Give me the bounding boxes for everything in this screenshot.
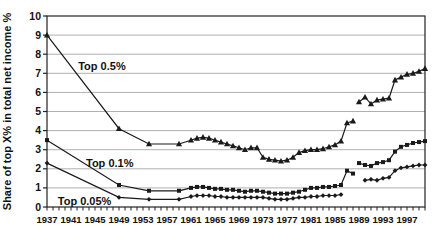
x-axis-tick-label: 1985: [324, 214, 346, 225]
x-axis-tick-label: 1973: [252, 214, 273, 225]
data-point-diamond: [177, 197, 182, 202]
x-axis-tick-label: 1949: [108, 214, 129, 225]
series-label-top-0.5-: Top 0.5%: [78, 60, 126, 72]
data-point-diamond: [207, 193, 212, 198]
data-point-diamond: [273, 197, 278, 202]
series-line-top-0.5-: [359, 69, 425, 104]
x-axis-tick-label: 1981: [300, 214, 322, 225]
data-point-square: [285, 192, 289, 196]
data-point-diamond: [201, 193, 206, 198]
data-point-square: [387, 158, 391, 162]
y-axis-tick-label: 4: [35, 124, 41, 136]
x-axis-tick-label: 1993: [372, 214, 393, 225]
data-point-triangle: [332, 142, 338, 148]
data-point-square: [237, 189, 241, 193]
data-point-diamond: [285, 197, 290, 202]
data-point-square: [333, 184, 337, 188]
data-point-square: [117, 183, 121, 187]
data-point-square: [363, 163, 367, 167]
data-point-square: [381, 160, 385, 164]
data-point-triangle: [200, 134, 206, 140]
data-point-diamond: [219, 194, 224, 199]
data-point-square: [261, 190, 265, 194]
data-point-triangle: [362, 94, 368, 100]
data-point-square: [147, 189, 151, 193]
data-point-square: [255, 189, 259, 193]
x-axis-tick-label: 1937: [36, 214, 57, 225]
data-point-diamond: [327, 193, 332, 198]
data-point-diamond: [189, 194, 194, 199]
data-point-square: [417, 140, 421, 144]
y-axis-tick-label: 9: [35, 29, 41, 41]
y-axis-tick-label: 5: [35, 105, 41, 117]
data-point-diamond: [231, 195, 236, 200]
data-point-diamond: [309, 194, 314, 199]
data-point-square: [339, 183, 343, 187]
data-point-diamond: [213, 194, 218, 199]
data-point-square: [231, 188, 235, 192]
y-axis-tick-label: 8: [35, 48, 41, 60]
data-point-diamond: [411, 164, 416, 169]
data-point-triangle: [338, 138, 344, 144]
data-point-square: [207, 186, 211, 190]
data-point-square: [267, 191, 271, 195]
y-axis-tick-label: 3: [35, 143, 41, 155]
x-axis-tick-label: 1977: [276, 214, 297, 225]
x-axis-tick-label: 1997: [396, 214, 417, 225]
data-point-square: [423, 139, 427, 143]
chart-canvas: 0123456789101937194119451949195319571961…: [0, 0, 440, 239]
data-point-square: [297, 190, 301, 194]
data-point-diamond: [417, 163, 422, 168]
y-axis-title: Share of top X% in total net income %: [1, 13, 13, 211]
data-point-diamond: [255, 195, 260, 200]
data-point-square: [375, 161, 379, 165]
data-point-diamond: [261, 195, 266, 200]
data-point-triangle: [386, 95, 392, 101]
y-axis-tick-label: 2: [35, 162, 41, 174]
x-axis-tick-label: 1989: [348, 214, 369, 225]
data-point-diamond: [195, 193, 200, 198]
data-point-square: [351, 172, 355, 176]
x-axis-tick-label: 1953: [132, 214, 153, 225]
income-share-chart: 0123456789101937194119451949195319571961…: [0, 0, 440, 239]
series-line-top-0.1-: [359, 141, 425, 166]
data-point-square: [213, 187, 217, 191]
data-point-diamond: [237, 195, 242, 200]
data-point-square: [249, 189, 253, 193]
data-point-square: [273, 192, 277, 196]
data-point-diamond: [423, 163, 428, 168]
data-point-square: [393, 150, 397, 154]
data-point-square: [411, 141, 415, 145]
data-point-diamond: [375, 178, 380, 183]
data-point-diamond: [225, 195, 230, 200]
data-point-square: [357, 161, 361, 165]
data-point-diamond: [399, 165, 404, 170]
x-axis-tick-label: 1961: [180, 214, 202, 225]
data-point-triangle: [350, 118, 356, 124]
data-point-diamond: [243, 195, 248, 200]
x-axis-tick-label: 1945: [84, 214, 106, 225]
data-point-diamond: [333, 193, 338, 198]
y-axis-tick-label: 10: [29, 10, 41, 22]
series-label-top-0.05-: Top 0.05%: [58, 195, 112, 207]
data-point-square: [345, 169, 349, 173]
data-point-diamond: [363, 178, 368, 183]
x-axis-tick-label: 1969: [228, 214, 249, 225]
data-point-diamond: [297, 195, 302, 200]
data-point-diamond: [303, 195, 308, 200]
data-point-diamond: [381, 176, 386, 181]
data-point-diamond: [279, 197, 284, 202]
data-point-square: [405, 143, 409, 147]
data-point-square: [219, 187, 223, 191]
y-axis-tick-label: 7: [35, 67, 41, 79]
data-point-diamond: [369, 177, 374, 182]
data-point-square: [315, 186, 319, 190]
data-point-square: [369, 164, 373, 168]
y-axis-tick-label: 6: [35, 86, 41, 98]
data-point-square: [225, 188, 229, 192]
data-point-square: [45, 138, 49, 142]
data-point-square: [309, 186, 313, 190]
y-axis-tick-label: 1: [35, 181, 41, 193]
data-point-square: [279, 192, 283, 196]
data-point-square: [201, 185, 205, 189]
